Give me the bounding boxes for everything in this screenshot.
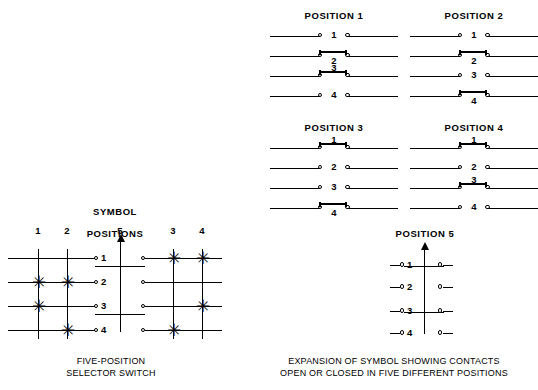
- contact-number-label: 2: [407, 281, 412, 292]
- contact-row: 2: [408, 156, 538, 176]
- wire-right: [443, 287, 453, 288]
- position-5-title: POSITION 5: [340, 228, 510, 239]
- wire-left: [390, 311, 400, 312]
- contact-terminal-right: [345, 165, 349, 169]
- contact-row: 1: [268, 24, 400, 44]
- contact-number-label: 2: [464, 162, 484, 172]
- closed-contact-marker: ✳: [32, 300, 45, 313]
- symbol-selector-arrow-icon: [117, 234, 125, 242]
- contact-terminal-left: [400, 262, 404, 266]
- wire-right: [488, 148, 538, 149]
- symbol-selector-crossbar: [95, 266, 145, 267]
- symbol-contact-line-left: [8, 330, 95, 331]
- symbol-terminal-left: [94, 328, 98, 332]
- symbol-caption-line-1: FIVE-POSITION: [0, 355, 222, 367]
- contact-number-label: 1: [324, 30, 344, 40]
- contact-terminal-right: [345, 33, 349, 37]
- symbol-caption: FIVE-POSITION SELECTOR SWITCH: [0, 355, 222, 379]
- wire-right: [488, 188, 538, 189]
- symbol-position-header: 4: [194, 226, 210, 236]
- bridge-shoulder-left: [319, 142, 321, 147]
- symbol-contact-number: 1: [101, 253, 106, 263]
- wire-right: [488, 56, 538, 57]
- symbol-terminal-right: [141, 328, 145, 332]
- symbol-contact-line-left: [8, 306, 95, 307]
- wire-left: [390, 287, 400, 288]
- symbol-terminal-left: [94, 256, 98, 260]
- symbol-position-header: 3: [165, 226, 181, 236]
- symbol-block: SYMBOL POSITIONS 125341234✳✳✳✳✳✳✳✳: [0, 206, 230, 239]
- wire-left: [270, 168, 320, 169]
- closed-contact-bridge: [459, 51, 487, 53]
- contact-terminal-left: [400, 308, 404, 312]
- contact-number-label: 1: [464, 135, 484, 145]
- contact-terminal-right: [438, 330, 442, 334]
- bridge-shoulder-right: [345, 142, 347, 147]
- contact-row: 4: [268, 84, 400, 104]
- contact-terminal-right: [485, 165, 489, 169]
- contact-row: 3: [408, 64, 538, 84]
- position-5-panel: POSITION 5 1234: [340, 228, 510, 239]
- symbol-contact-line-right: [145, 258, 222, 259]
- wire-right: [443, 333, 453, 334]
- wire-left: [410, 76, 460, 77]
- symbol-terminal-right: [141, 304, 145, 308]
- symbol-position-header: 2: [59, 226, 75, 236]
- contact-row: 1: [340, 258, 510, 272]
- wire-left: [410, 208, 460, 209]
- contact-number-label: 3: [324, 182, 344, 192]
- contact-row: 2: [268, 44, 400, 64]
- symbol-contact-line-right: [145, 330, 222, 331]
- expansion-caption: EXPANSION OF SYMBOL SHOWING CONTACTS OPE…: [250, 355, 538, 379]
- symbol-contact-line-left: [8, 282, 95, 283]
- bridge-shoulder-right: [345, 202, 347, 207]
- contact-number-label: 4: [407, 327, 412, 338]
- contact-number-label: 3: [464, 70, 484, 80]
- contact-terminal-left: [458, 73, 462, 77]
- wire-left: [270, 148, 320, 149]
- contact-number-label: 1: [324, 135, 344, 145]
- closed-contact-marker: ✳: [61, 324, 74, 337]
- contact-terminal-left: [318, 93, 322, 97]
- contact-row: 2: [408, 44, 538, 64]
- wire-left: [270, 36, 320, 37]
- bridge-shoulder-right: [345, 70, 347, 75]
- symbol-terminal-left: [94, 280, 98, 284]
- wire-right: [348, 56, 398, 57]
- bridge-shoulder-left: [459, 90, 461, 95]
- wire-left: [270, 96, 320, 97]
- wire-right: [348, 188, 398, 189]
- contact-number-label: 2: [324, 162, 344, 172]
- bridge-shoulder-left: [459, 50, 461, 55]
- symbol-caption-line-2: SELECTOR SWITCH: [0, 367, 222, 379]
- contact-terminal-left: [458, 33, 462, 37]
- contact-number-label: 3: [324, 63, 344, 73]
- wire-right: [348, 76, 398, 77]
- contact-terminal-right: [345, 185, 349, 189]
- contact-terminal-right: [345, 93, 349, 97]
- contact-row: 3: [408, 176, 538, 196]
- wire-left: [410, 96, 460, 97]
- wire-left: [410, 168, 460, 169]
- closed-contact-marker: ✳: [167, 252, 180, 265]
- symbol-contact-number: 2: [101, 277, 106, 287]
- symbol-contact-line-right: [145, 306, 222, 307]
- contact-number-label: 4: [464, 96, 484, 106]
- symbol-position-header: 1: [30, 226, 46, 236]
- symbol-terminal-right: [141, 280, 145, 284]
- bridge-shoulder-right: [485, 90, 487, 95]
- contact-row: 4: [340, 326, 510, 340]
- symbol-terminal-left: [94, 304, 98, 308]
- contact-row: 1: [268, 136, 400, 156]
- contact-terminal-right: [485, 205, 489, 209]
- wire-left: [270, 208, 320, 209]
- contact-row: 3: [340, 304, 510, 318]
- contact-terminal-left: [318, 165, 322, 169]
- expansion-caption-line-2: OPEN OR CLOSED IN FIVE DIFFERENT POSITIO…: [250, 367, 538, 379]
- contact-row: 3: [268, 64, 400, 84]
- wire-right: [488, 96, 538, 97]
- expansion-panel-title: POSITION 1: [268, 10, 400, 21]
- contact-number-label: 4: [324, 90, 344, 100]
- closed-contact-marker: ✳: [32, 276, 45, 289]
- symbol-contact-line-right: [145, 282, 222, 283]
